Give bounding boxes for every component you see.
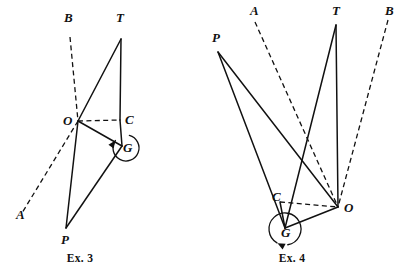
caption-ex4: Ex. 4 xyxy=(279,252,305,264)
point-label-ex3-p: P xyxy=(61,232,70,247)
point-label-ex4-b: B xyxy=(384,3,394,18)
segment-O-G xyxy=(78,121,122,146)
rotation-arc-G-arrowhead xyxy=(277,243,285,249)
point-label-ex3-a: A xyxy=(15,207,25,222)
point-label-ex3-o: O xyxy=(63,113,73,128)
dashed-segment-C-O xyxy=(280,202,338,207)
figure-ex4-group: PATBCGOEx. 4 xyxy=(212,3,394,264)
segment-G-O xyxy=(285,207,338,228)
point-label-ex4-g: G xyxy=(281,225,291,240)
geometry-diagram-svg: ABTOCGPEx. 3 PATBCGOEx. 4 xyxy=(0,0,410,274)
point-label-ex3-t: T xyxy=(116,10,125,25)
dashed-ray-B-through-O xyxy=(70,37,78,121)
segment-T-O xyxy=(336,25,338,207)
point-label-ex4-t: T xyxy=(332,3,341,18)
point-label-ex4-c: C xyxy=(272,189,281,204)
point-label-ex4-p: P xyxy=(212,30,221,45)
dashed-ray-B-to-O xyxy=(338,20,388,207)
figure-ex3-group: ABTOCGPEx. 3 xyxy=(15,10,139,264)
caption-ex3: Ex. 3 xyxy=(67,252,93,264)
segment-P-O xyxy=(218,52,338,207)
segment-T-C xyxy=(120,39,121,120)
dashed-segment-O-C xyxy=(78,120,120,121)
point-label-ex4-a: A xyxy=(249,3,259,18)
segment-C-G xyxy=(120,120,122,146)
point-label-ex3-c: C xyxy=(125,112,134,127)
segment-O-T xyxy=(78,39,121,121)
point-label-ex3-b: B xyxy=(63,10,73,25)
point-label-ex4-o: O xyxy=(344,200,354,215)
figure-plate: ABTOCGPEx. 3 PATBCGOEx. 4 xyxy=(0,0,410,274)
segment-T-G xyxy=(285,25,336,228)
rotation-arc-G-arrowhead xyxy=(108,141,115,149)
point-label-ex3-g: G xyxy=(123,140,133,155)
